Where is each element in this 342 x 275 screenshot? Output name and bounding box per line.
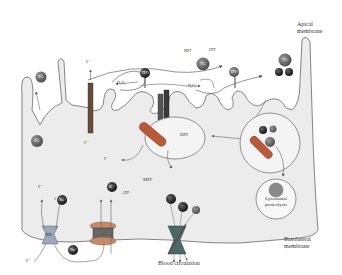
tpo-label-2: TPO: [230, 70, 238, 75]
tpo-label: TPO: [141, 71, 149, 76]
apical-membrane-label: Apical membrane: [297, 21, 322, 35]
iodide-apical-label: I⁻: [86, 59, 91, 65]
t3-ball: [275, 68, 283, 76]
iodide-blood-label: I⁻: [26, 258, 31, 264]
duox-bar-2: [164, 90, 169, 120]
tg-label-4: TG: [282, 58, 287, 63]
iodide-cyto-label: I⁻: [84, 140, 89, 146]
nis-label: NIS: [45, 233, 51, 238]
thyroid-cell-diagram: Apical membrane Basolateral membrane Blo…: [0, 0, 342, 275]
tg-label: TG: [38, 75, 43, 80]
na-label-in: Na⁺: [59, 198, 66, 203]
mit-label-top: MIT: [184, 49, 191, 54]
tg-label-3: TG: [200, 62, 205, 67]
iodide-nis-label: I⁻: [38, 184, 43, 190]
basolateral-membrane-label: Basolateral membrane: [284, 236, 311, 250]
tg-label-2: TG: [34, 139, 39, 144]
lysosomal-proteolysis-label: Lysosomal proteolysis: [260, 196, 292, 207]
k-label: K⁺: [109, 185, 114, 190]
mit-label-cyto: MIT: [143, 177, 152, 183]
two-label: 2: [54, 197, 56, 202]
h2o2-label-2: H₂O₂: [188, 84, 197, 89]
atp-label: ATP: [122, 191, 129, 196]
dit-label-vesicle: DIT: [180, 132, 188, 138]
t4-ball: [285, 68, 293, 76]
na-label-out: Na⁺: [70, 248, 77, 253]
blood-circulation-label: Blood circulation: [158, 260, 200, 267]
iodide-dehal-label: I⁻: [104, 156, 109, 162]
dit-label-top: DIT: [209, 48, 216, 53]
pendrin-channel: [88, 83, 93, 133]
lysosome-core: [269, 183, 283, 197]
h2o2-label: H₂O₂: [117, 81, 126, 86]
duox-bar-1: [158, 94, 163, 120]
